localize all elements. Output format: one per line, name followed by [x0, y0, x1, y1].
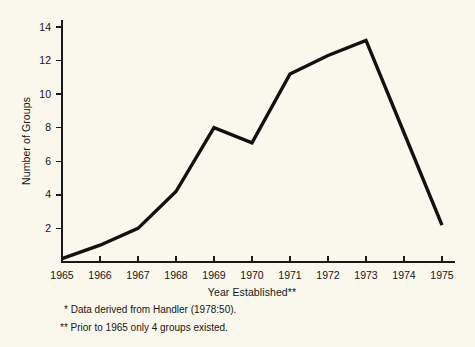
x-tick-label: 1974: [392, 269, 416, 281]
footnote-1: * Data derived from Handler (1978:50).: [64, 304, 236, 315]
series-group: [62, 40, 442, 258]
y-tick-label: 12: [39, 54, 51, 66]
footnote-2: ** Prior to 1965 only 4 groups existed.: [60, 322, 228, 333]
y-axis-ticks: 2468101214: [39, 21, 62, 234]
y-tick-label: 6: [45, 155, 51, 167]
x-tick-label: 1965: [50, 269, 74, 281]
x-tick-label: 1966: [88, 269, 112, 281]
y-tick-label: 10: [39, 88, 51, 100]
x-tick-label: 1971: [278, 269, 302, 281]
y-tick-label: 14: [39, 21, 51, 33]
axis-lines: [62, 20, 455, 262]
x-axis-title: Year Established**: [208, 286, 296, 298]
chart-figure: 2468101214 19651966196719681969197019711…: [0, 0, 475, 347]
x-tick-label: 1975: [430, 269, 454, 281]
x-axis-ticks: 1965196619671968196919701971197219731974…: [50, 256, 454, 281]
line-chart-canvas: 2468101214 19651966196719681969197019711…: [0, 0, 475, 347]
data-line-number-of-groups: [62, 40, 442, 258]
x-tick-label: 1973: [354, 269, 378, 281]
x-tick-label: 1969: [202, 269, 226, 281]
y-tick-label: 2: [45, 222, 51, 234]
x-tick-label: 1967: [126, 269, 150, 281]
x-tick-label: 1972: [316, 269, 340, 281]
x-tick-label: 1970: [240, 269, 264, 281]
x-tick-label: 1968: [164, 269, 188, 281]
chart-axes: [62, 20, 455, 262]
y-axis-title: Number of Groups: [20, 97, 32, 185]
y-tick-label: 8: [45, 121, 51, 133]
y-tick-label: 4: [45, 188, 51, 200]
